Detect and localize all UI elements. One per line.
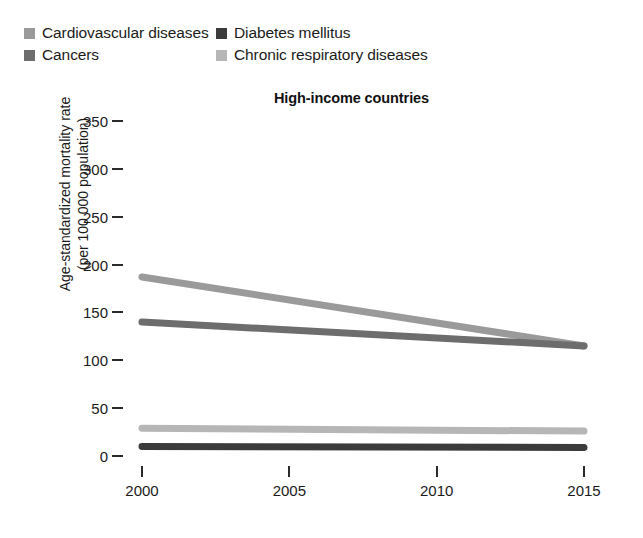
series-line-diabetes-mellitus <box>142 446 584 447</box>
series-lines-group <box>0 0 643 538</box>
series-line-chronic-respiratory-diseases <box>142 428 584 431</box>
plot-area: 050100150200250300350 2000200520102015 <box>0 0 643 538</box>
